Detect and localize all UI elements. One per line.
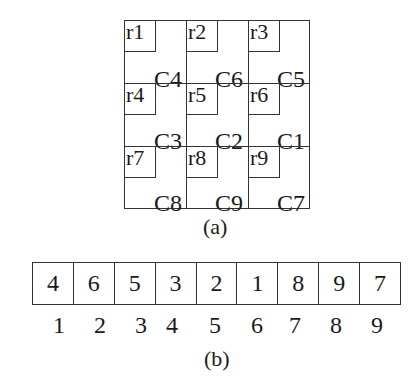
grid-cell: r9 C7 (248, 146, 310, 208)
region-label: r8 (188, 144, 206, 172)
grid-cell: r8 C9 (186, 146, 248, 208)
region-label: r7 (126, 144, 144, 172)
cluster-label: C8 (154, 191, 182, 215)
region-label: r1 (126, 18, 144, 46)
array-cell: 6 (73, 263, 114, 304)
array-index: 7 (289, 312, 301, 338)
region-label: r2 (188, 18, 206, 46)
region-label: r3 (250, 18, 268, 46)
region-box: r2 (187, 21, 218, 52)
array-index: 8 (330, 312, 342, 338)
region-label: r9 (250, 144, 268, 172)
array-cell: 4 (33, 263, 73, 304)
grid-cell: r6 C1 (248, 83, 310, 146)
region-label: r5 (188, 81, 206, 109)
array-cell: 5 (114, 263, 155, 304)
grid-cell: r2 C6 (186, 21, 248, 84)
cluster-label: C7 (277, 191, 305, 215)
array-cell: 8 (277, 263, 318, 304)
array-cell: 2 (196, 263, 237, 304)
region-label: r4 (126, 81, 144, 109)
array-cell: 9 (318, 263, 359, 304)
array-index: 5 (209, 312, 221, 338)
region-grid: r1 C4 r2 C6 r3 C5 r4 C3 r5 C2 r6 C1 r7 C… (124, 20, 310, 209)
array-index: 9 (371, 312, 383, 338)
grid-cell: r1 C4 (125, 21, 187, 84)
region-box: r5 (187, 84, 218, 115)
cluster-label: C9 (215, 191, 243, 215)
array-index: 4 (166, 312, 178, 338)
region-box: r9 (249, 147, 280, 178)
array-cell: 1 (236, 263, 277, 304)
region-box: r6 (249, 84, 280, 115)
caption-b: (b) (204, 346, 230, 372)
grid-cell: r7 C8 (125, 146, 187, 208)
region-label: r6 (250, 81, 268, 109)
grid-cell: r4 C3 (125, 83, 187, 146)
permutation-array: 4 6 5 3 2 1 8 9 7 (32, 262, 401, 305)
region-box: r7 (125, 147, 156, 178)
grid-cell: r3 C5 (248, 21, 310, 84)
array-cell: 7 (359, 263, 400, 304)
region-box: r8 (187, 147, 218, 178)
region-box: r1 (125, 21, 156, 52)
caption-a: (a) (203, 214, 227, 240)
grid-cell: r5 C2 (186, 83, 248, 146)
array-index: 3 (135, 312, 147, 338)
region-box: r4 (125, 84, 156, 115)
array-index: 6 (251, 312, 263, 338)
array-index: 1 (53, 312, 65, 338)
region-box: r3 (249, 21, 280, 52)
array-index: 2 (94, 312, 106, 338)
array-cell: 3 (155, 263, 196, 304)
